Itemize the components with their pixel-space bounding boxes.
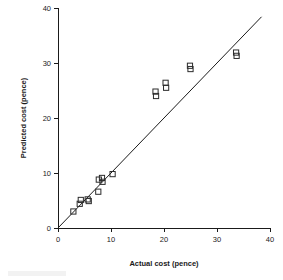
data-point-marker xyxy=(164,85,169,90)
scatter-chart: 010203040 010203040 Actual cost (pence) … xyxy=(0,0,283,280)
x-tick-group: 010203040 xyxy=(56,228,274,244)
y-tick-group: 010203040 xyxy=(43,4,58,233)
x-tick-label: 40 xyxy=(266,235,274,244)
x-tick-label: 30 xyxy=(213,235,221,244)
data-point-marker xyxy=(96,189,101,194)
y-axis-title: Predicted cost (pence) xyxy=(19,77,28,158)
scan-artifact xyxy=(8,271,66,276)
data-point-marker xyxy=(110,172,115,177)
data-point-marker xyxy=(163,80,168,85)
y-tick-label: 0 xyxy=(47,224,51,233)
y-tick-label: 10 xyxy=(43,169,51,178)
x-tick-label: 0 xyxy=(56,235,60,244)
x-tick-label: 10 xyxy=(107,235,115,244)
y-tick-label: 30 xyxy=(43,59,51,68)
x-axis-title: Actual cost (pence) xyxy=(129,259,199,268)
data-point-group xyxy=(71,50,239,214)
x-tick-label: 20 xyxy=(160,235,168,244)
plot-area: 010203040 010203040 Actual cost (pence) … xyxy=(0,0,283,280)
y-tick-label: 40 xyxy=(43,4,51,13)
y-tick-label: 20 xyxy=(43,114,51,123)
